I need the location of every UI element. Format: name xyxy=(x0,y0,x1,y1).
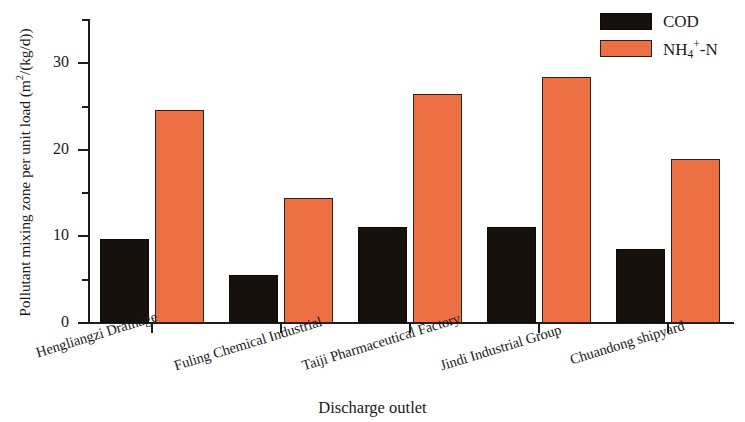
x-category-label: Chuandong shipyard xyxy=(568,317,686,368)
legend-item-nh4n: NH4+-N xyxy=(600,36,718,61)
legend-label-nh4n-suffix: -N xyxy=(700,40,718,59)
bar-cod xyxy=(616,249,665,323)
bar-nh4n xyxy=(155,110,204,323)
legend-label-nh4n-prefix: NH xyxy=(663,40,688,59)
chart-legend: COD NH4+-N xyxy=(600,9,718,63)
bar-nh4n xyxy=(671,159,720,323)
legend-item-cod: COD xyxy=(600,9,718,34)
y-tick-label: 30 xyxy=(9,54,69,70)
plot-area xyxy=(88,20,732,323)
bar-chart: Pollutant mixing zone per unit load (m2/… xyxy=(0,0,745,422)
y-tick-label: 20 xyxy=(9,141,69,157)
bar-nh4n xyxy=(284,198,333,323)
legend-swatch-nh4n xyxy=(600,40,652,57)
x-axis-title: Discharge outlet xyxy=(0,398,745,418)
legend-label-nh4n-sub: 4 xyxy=(688,48,694,61)
bar-nh4n xyxy=(542,77,591,323)
x-category-label: Jindi Industrial Group xyxy=(438,321,563,374)
legend-label-nh4n: NH4+-N xyxy=(663,39,718,58)
legend-swatch-cod xyxy=(600,13,652,30)
bar-cod xyxy=(487,227,536,323)
bar-cod xyxy=(229,275,278,323)
bar-nh4n xyxy=(413,94,462,323)
y-axis-title-prefix: Pollutant mixing zone per unit load (m xyxy=(16,80,33,316)
y-tick-label: 10 xyxy=(9,227,69,243)
bar-cod xyxy=(100,239,149,323)
y-axis-title-exponent: 2 xyxy=(14,75,25,80)
bar-cod xyxy=(358,227,407,323)
legend-label-cod: COD xyxy=(663,13,699,30)
y-tick-label: 0 xyxy=(9,314,69,330)
